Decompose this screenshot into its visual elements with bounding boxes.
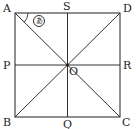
label-r: R: [123, 60, 131, 71]
label-c: C: [122, 117, 130, 128]
diagram-canvas: [0, 0, 136, 129]
label-s: S: [63, 1, 71, 12]
label-b: B: [3, 117, 11, 128]
angle-label-a: あ: [33, 15, 45, 27]
square-diagram: A S D P R O B Q C あ: [0, 0, 136, 129]
label-d: D: [123, 3, 132, 14]
label-o: O: [69, 66, 78, 77]
angle-arc-icon: [24, 13, 28, 22]
label-a: A: [3, 3, 11, 14]
label-p: P: [3, 60, 10, 71]
label-q: Q: [63, 119, 72, 129]
